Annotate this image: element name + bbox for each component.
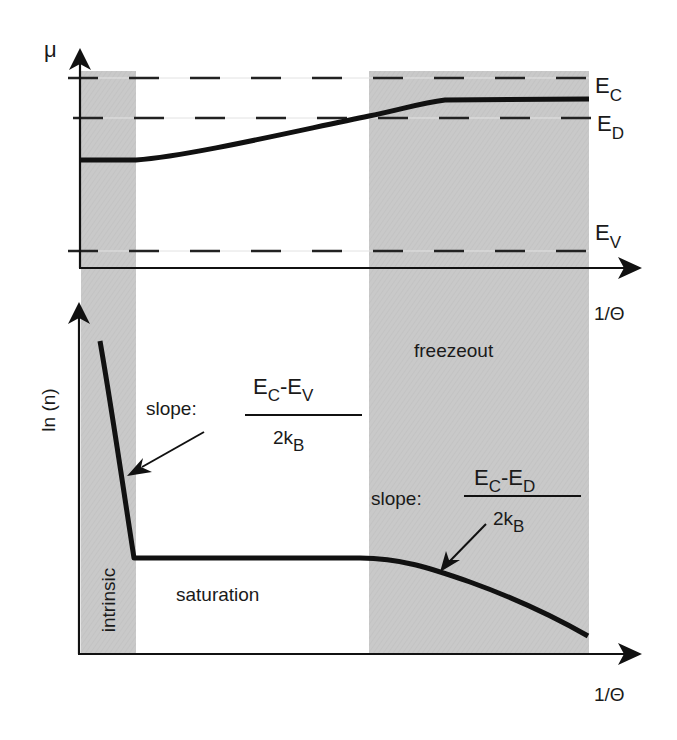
ec-label: EC: [595, 73, 622, 105]
ed-label: ED: [597, 111, 624, 143]
slope1-numerator: EC-EV: [253, 374, 314, 405]
intrinsic-slope-annotation: slope: EC-EV 2kB: [127, 374, 362, 476]
saturation-label: saturation: [176, 584, 259, 605]
slope1-pointer: [142, 432, 204, 467]
figure-canvas: μ 1/Θ EC ED EV ln (n) 1/Θ intrinsic satu…: [0, 0, 677, 740]
mu-axis-label: μ: [44, 37, 57, 62]
intrinsic-label: intrinsic: [98, 568, 119, 632]
freezeout-label: freezeout: [414, 340, 494, 361]
ev-label: EV: [595, 220, 622, 252]
slope2-label: slope:: [371, 488, 422, 509]
slope1-denominator: 2kB: [273, 427, 304, 455]
top-x-axis-label: 1/Θ: [594, 303, 625, 324]
ln-n-axis-label: ln (n): [38, 388, 59, 431]
bottom-x-axis-label: 1/Θ: [594, 684, 625, 705]
semiconductor-regimes-figure: μ 1/Θ EC ED EV ln (n) 1/Θ intrinsic satu…: [0, 0, 677, 740]
slope1-label: slope:: [146, 398, 197, 419]
freezeout-region-shade: [369, 71, 589, 654]
